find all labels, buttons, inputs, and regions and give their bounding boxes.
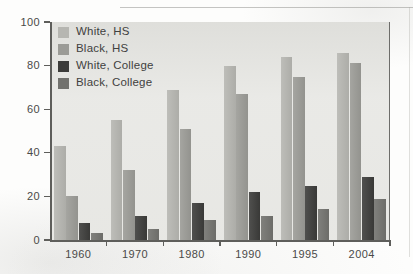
bar <box>91 233 103 240</box>
bar-shading <box>236 94 248 240</box>
x-axis-tick-label: 1990 <box>218 249 278 260</box>
scan-edge-top <box>120 7 413 8</box>
bar <box>204 220 216 240</box>
legend-item-label: White, College <box>76 60 154 72</box>
x-axis-tick-label: 1980 <box>162 249 222 260</box>
x-axis-tick-label: 1995 <box>275 249 335 260</box>
x-axis-tick <box>163 241 164 246</box>
x-axis-tick <box>219 241 220 246</box>
bar <box>305 186 317 241</box>
y-axis-tick-label: 80 <box>6 60 40 71</box>
bar-shading <box>318 209 330 240</box>
legend-item: Black, HS <box>58 41 178 57</box>
bar-shading <box>249 192 261 240</box>
scan-edge-right <box>409 7 410 257</box>
bar <box>66 196 78 240</box>
bar-shading <box>180 129 192 240</box>
bar <box>337 53 349 240</box>
bar <box>167 90 179 240</box>
bar <box>374 199 386 240</box>
legend-swatch-icon <box>58 27 69 38</box>
bar-shading <box>224 66 236 240</box>
y-axis-tick-label: 0 <box>6 235 40 246</box>
y-axis-tick-label: 60 <box>6 104 40 115</box>
scanned-page: 020406080100 196019701980199019952004 Wh… <box>0 0 413 274</box>
y-axis-tick-label: 100 <box>6 17 40 28</box>
bar <box>281 57 293 240</box>
legend-item-label: Black, HS <box>76 43 128 55</box>
x-axis-tick <box>333 241 334 246</box>
x-axis-tick-label: 1970 <box>105 249 165 260</box>
legend-item: White, College <box>58 58 178 74</box>
legend-swatch-icon <box>58 61 69 72</box>
x-axis-tick-label: 1960 <box>48 249 108 260</box>
bar-shading <box>66 196 78 240</box>
legend-item-label: Black, College <box>76 77 152 89</box>
y-axis-tick-label: 40 <box>6 147 40 158</box>
bar <box>236 94 248 240</box>
bar-shading <box>204 220 216 240</box>
bar <box>224 66 236 240</box>
x-axis-tick <box>389 241 390 246</box>
bar-shading <box>293 77 305 241</box>
bar <box>79 223 91 240</box>
bar-shading <box>192 203 204 240</box>
x-axis-tick-label: 2004 <box>332 249 392 260</box>
bar-shading <box>111 120 123 240</box>
legend-swatch-icon <box>58 44 69 55</box>
bar <box>362 177 374 240</box>
bar <box>192 203 204 240</box>
legend-swatch-icon <box>58 78 69 89</box>
y-axis-tick-label: 20 <box>6 191 40 202</box>
bar <box>180 129 192 240</box>
bar <box>111 120 123 240</box>
bar-shading <box>337 53 349 240</box>
grouped-bar-chart: 020406080100 196019701980199019952004 Wh… <box>0 0 413 274</box>
bar-shading <box>305 186 317 241</box>
bar-shading <box>123 170 135 240</box>
bar-shading <box>362 177 374 240</box>
bar <box>135 216 147 240</box>
bar-shading <box>148 229 160 240</box>
legend-item-label: White, HS <box>76 26 130 38</box>
bar <box>261 216 273 240</box>
bar-shading <box>54 146 66 240</box>
legend-item: Black, College <box>58 75 178 91</box>
bar-shading <box>374 199 386 240</box>
bar <box>318 209 330 240</box>
bar <box>293 77 305 241</box>
bar <box>350 63 362 240</box>
legend-item: White, HS <box>58 24 178 40</box>
bar-shading <box>281 57 293 240</box>
bar <box>249 192 261 240</box>
bar-shading <box>91 233 103 240</box>
bar-shading <box>135 216 147 240</box>
x-axis-tick <box>276 241 277 246</box>
chart-legend: White, HSBlack, HSWhite, CollegeBlack, C… <box>58 24 178 92</box>
bar-shading <box>261 216 273 240</box>
bar <box>123 170 135 240</box>
bar-shading <box>167 90 179 240</box>
x-axis-tick <box>106 241 107 246</box>
bar-shading <box>350 63 362 240</box>
bar <box>148 229 160 240</box>
bar-shading <box>79 223 91 240</box>
bar <box>54 146 66 240</box>
